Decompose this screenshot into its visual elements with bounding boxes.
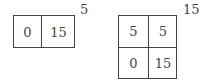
grid-cell: 5	[119, 16, 149, 48]
grid-cell: 0	[119, 48, 149, 79]
grid-1x2: 0 15	[13, 15, 75, 48]
grid-2x2: 5 5 0 15	[118, 15, 177, 79]
grid-cell: 5	[149, 16, 177, 48]
grid-label: 5	[80, 3, 88, 16]
grid-label: 15	[183, 3, 200, 16]
grid-cell: 15	[149, 48, 177, 79]
grid-cell: 0	[14, 16, 42, 48]
grid-cell: 15	[42, 16, 75, 48]
